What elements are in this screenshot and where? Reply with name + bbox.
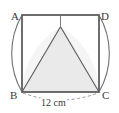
arc-lens-region <box>22 27 99 92</box>
vertex-label-a: A <box>11 11 19 22</box>
vertex-label-d: D <box>101 11 109 22</box>
dimension-label-12cm: 12 cm <box>40 98 67 108</box>
vertex-label-b: B <box>10 90 17 101</box>
vertex-label-c: C <box>102 90 109 101</box>
geometry-figure: A D B C 12 cm <box>0 0 119 113</box>
arc-centered-at-c <box>12 15 22 92</box>
arc-centered-at-b <box>99 15 109 92</box>
